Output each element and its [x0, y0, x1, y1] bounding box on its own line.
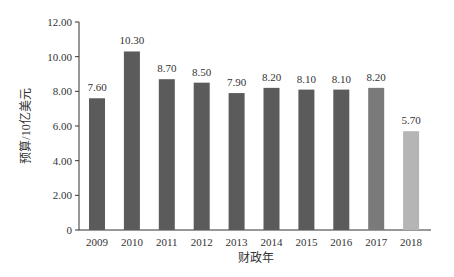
value-label: 8.70: [157, 62, 177, 74]
y-axis-title: 预算/10亿美元: [18, 88, 33, 163]
bar-2013: [229, 93, 245, 230]
value-label: 8.10: [297, 73, 317, 85]
y-tick-label: 8.00: [53, 85, 73, 97]
x-tick-label: 2014: [261, 236, 284, 248]
bar-2015: [298, 90, 314, 230]
value-label: 7.90: [227, 76, 247, 88]
bars: 7.6010.308.708.507.908.208.108.108.205.7…: [87, 34, 421, 230]
bar-2010: [124, 51, 140, 230]
bar-chart: 02.004.006.008.0010.0012.00 200920102011…: [0, 0, 454, 277]
bar-2018: [403, 131, 419, 230]
x-tick-label: 2012: [191, 236, 213, 248]
bar-2014: [264, 88, 280, 230]
y-axis: 02.004.006.008.0010.0012.00: [47, 16, 79, 236]
y-tick-label: 4.00: [53, 155, 73, 167]
bar-2009: [89, 98, 105, 230]
x-tick-label: 2011: [156, 236, 178, 248]
x-tick-label: 2018: [400, 236, 423, 248]
value-label: 8.20: [367, 71, 387, 83]
value-label: 8.50: [192, 66, 212, 78]
value-label: 7.60: [87, 81, 107, 93]
x-tick-label: 2015: [295, 236, 318, 248]
x-tick-label: 2010: [121, 236, 144, 248]
y-tick-label: 6.00: [53, 120, 73, 132]
y-tick-label: 0: [67, 224, 73, 236]
value-label: 10.30: [120, 34, 145, 46]
bar-2011: [159, 79, 175, 230]
value-label: 8.10: [332, 73, 352, 85]
value-label: 5.70: [401, 114, 421, 126]
y-tick-label: 12.00: [47, 16, 72, 28]
x-axis: 2009201020112012201320142015201620172018: [79, 230, 431, 248]
bar-2017: [368, 88, 384, 230]
x-tick-label: 2009: [86, 236, 109, 248]
bar-2012: [194, 83, 210, 230]
bar-2016: [333, 90, 349, 230]
x-tick-label: 2016: [330, 236, 353, 248]
x-tick-label: 2017: [365, 236, 388, 248]
value-label: 8.20: [262, 71, 282, 83]
x-tick-label: 2013: [226, 236, 249, 248]
y-tick-label: 2.00: [53, 189, 73, 201]
x-axis-title: 财政年: [238, 251, 274, 265]
y-tick-label: 10.00: [47, 51, 72, 63]
